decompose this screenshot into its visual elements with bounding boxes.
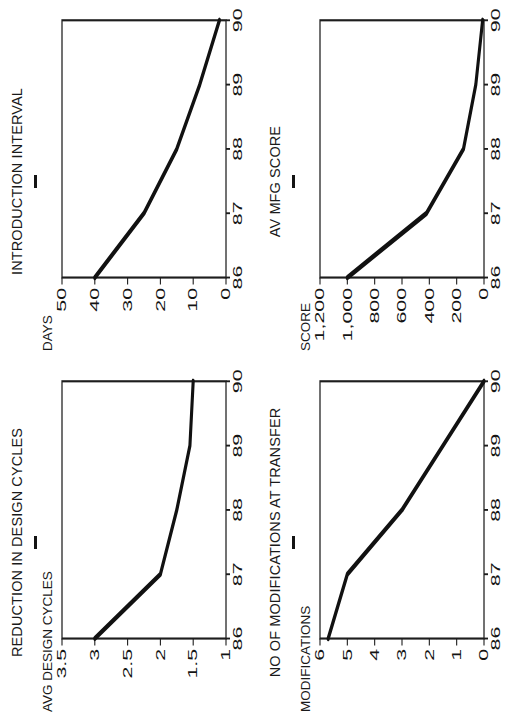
plot-area: 3.532.521.518687888990 [56,371,252,714]
x-tick-label: 88 [489,498,503,522]
title-rule [292,536,295,549]
panel-title: NO OF MODIFICATIONS AT TRANSFER [268,371,284,714]
y-axis-title: MODIFICATIONS [299,371,313,712]
title-rule [34,536,37,549]
chart-svg-3: 1,2001,00080060040020008687888990 [314,10,505,353]
y-tick-label: 1.5 [186,649,200,679]
x-tick-label: 89 [231,73,245,97]
x-tick-label: 87 [489,562,503,586]
panel-no-of-modifications-at-transfer: NO OF MODIFICATIONS AT TRANSFER MODIFICA… [258,361,505,722]
y-tick-label: 50 [55,288,69,312]
y-tick-label: 200 [450,288,464,324]
y-tick-label: 400 [422,288,436,324]
plot-area: 1,2001,00080060040020008687888990 [314,10,505,353]
y-tick-label: 1,000 [340,288,354,342]
plot-frame [62,20,226,277]
series-line [95,381,193,638]
panel-introduction-interval: INTRODUCTION INTERVAL DAYS 5040302010086… [0,0,258,361]
x-tick-label: 87 [489,201,503,225]
y-tick-label: 1 [450,649,464,661]
y-axis-title: AVG DESIGN CYCLES [41,371,55,712]
panel-title: AV MFG SCORE [268,10,284,353]
x-tick-label: 86 [231,266,245,290]
plot-frame [320,20,484,277]
y-tick-label: 2 [422,649,436,661]
panel-title: INTRODUCTION INTERVAL [10,10,26,353]
chart-svg-0: 3.532.521.518687888990 [56,371,252,714]
x-tick-label: 89 [489,73,503,97]
y-tick-label: 3 [88,649,102,661]
x-tick-label: 87 [231,201,245,225]
chart-svg-1: 504030201008687888990 [56,10,252,353]
x-tick-label: 89 [489,434,503,458]
x-tick-label: 86 [231,627,245,651]
plot-area: 65432108687888990 [314,371,505,714]
y-tick-label: 40 [88,288,102,312]
x-tick-label: 88 [231,137,245,161]
chart-svg-2: 65432108687888990 [314,371,505,714]
x-tick-label: 89 [231,434,245,458]
series-line [328,381,484,638]
x-tick-label: 90 [489,369,503,393]
y-tick-label: 1,200 [313,288,327,342]
y-tick-label: 3 [395,649,409,661]
x-tick-label: 88 [489,137,503,161]
y-tick-label: 4 [368,649,382,661]
plot-area: 504030201008687888990 [56,10,252,353]
y-tick-label: 600 [395,288,409,324]
y-tick-label: 2.5 [121,649,135,679]
x-tick-label: 86 [489,266,503,290]
x-tick-label: 88 [231,498,245,522]
x-tick-label: 87 [231,562,245,586]
y-axis-title: DAYS [41,10,55,351]
y-tick-label: 800 [368,288,382,324]
y-tick-label: 20 [153,288,167,312]
panel-title: REDUCTION IN DESIGN CYCLES [10,371,26,714]
y-tick-label: 3.5 [55,649,69,679]
y-tick-label: 10 [186,288,200,312]
x-tick-label: 90 [231,8,245,32]
x-tick-label: 90 [231,369,245,393]
title-rule [292,175,295,188]
y-tick-label: 2 [153,649,167,661]
y-tick-label: 1 [219,649,233,661]
x-tick-label: 86 [489,627,503,651]
y-tick-label: 5 [340,649,354,661]
series-line [95,20,220,277]
series-line [348,20,483,277]
y-tick-label: 6 [313,649,327,661]
plot-frame [62,381,226,638]
panel-av-mfg-score: AV MFG SCORE SCORE 1,2001,00080060040020… [258,0,505,361]
title-rule [34,175,37,188]
panel-reduction-in-design-cycles: REDUCTION IN DESIGN CYCLES AVG DESIGN CY… [0,361,258,722]
y-axis-title: SCORE [299,10,313,351]
y-tick-label: 30 [121,288,135,312]
x-tick-label: 90 [489,8,503,32]
